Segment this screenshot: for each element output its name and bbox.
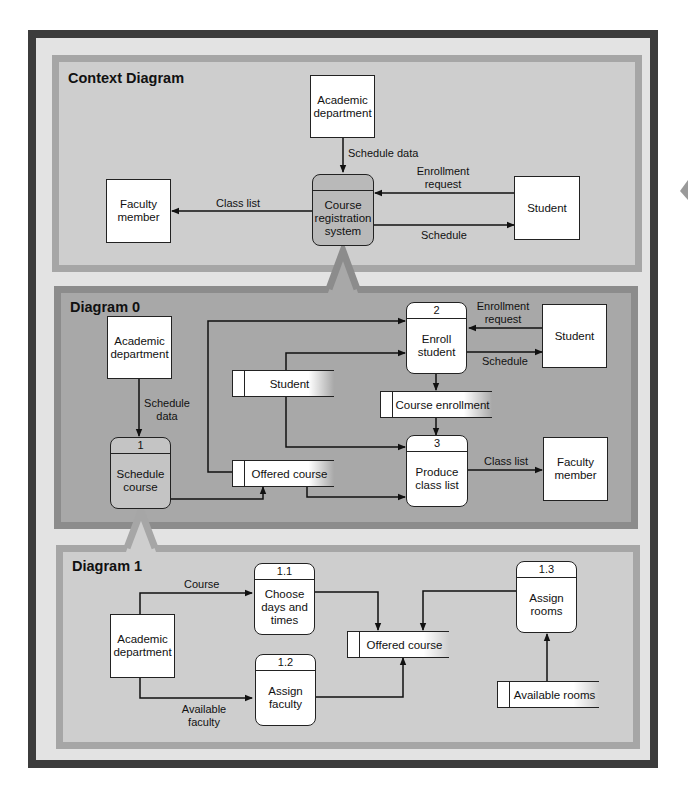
store-id-cell [232, 461, 245, 486]
entity-label: Academic department [108, 335, 171, 361]
process-id: 2 [407, 303, 466, 319]
entity-academic-department: Academic department [310, 75, 375, 138]
context-diagram-title: Context Diagram [68, 70, 184, 86]
flow-label-schedule: Schedule [421, 229, 467, 242]
process-id [313, 175, 373, 191]
entity-faculty-member: Faculty member [543, 437, 608, 501]
process-3-produce-class-list: 3 Produce class list [406, 435, 468, 507]
process-name: Schedule course [111, 454, 170, 508]
flow-label-schedule-data: Schedule data [348, 147, 418, 160]
store-id-cell [232, 371, 245, 396]
entity-label: Student [527, 202, 567, 215]
store-offered-course: Offered course [232, 460, 334, 487]
entity-label: Academic department [111, 633, 174, 659]
entity-faculty-member: Faculty member [106, 179, 171, 243]
process-name: Enroll student [407, 319, 466, 373]
process-id: 3 [407, 436, 467, 452]
entity-academic-department: Academic department [110, 614, 175, 678]
store-name: Available rooms [510, 682, 599, 707]
entity-academic-department: Academic department [107, 316, 172, 379]
process-course-registration-system: Course registration system [312, 174, 374, 246]
store-course-enrollment: Course enrollment [380, 391, 492, 418]
store-available-rooms: Available rooms [497, 681, 599, 708]
process-id: 1.1 [255, 564, 314, 580]
process-name: Assign faculty [256, 671, 315, 725]
flow-label-available-faculty: Available faculty [180, 703, 228, 728]
process-1-schedule-course: 1 Schedule course [110, 437, 171, 509]
flow-label-class-list: Class list [484, 455, 528, 468]
store-name: Offered course [360, 632, 449, 657]
cropped-arrow-artifact [680, 180, 688, 200]
process-1-1-choose-days-and-times: 1.1 Choose days and times [254, 563, 315, 635]
process-id: 1.2 [256, 655, 315, 671]
process-1-2-assign-faculty: 1.2 Assign faculty [255, 654, 316, 726]
process-1-3-assign-rooms: 1.3 Assign rooms [516, 561, 577, 633]
store-name: Offered course [245, 461, 334, 486]
process-name: Course registration system [313, 191, 373, 245]
process-name: Choose days and times [255, 580, 314, 634]
store-offered-course: Offered course [347, 631, 449, 658]
entity-label: Academic department [311, 94, 374, 120]
store-name: Course enrollment [393, 392, 492, 417]
flow-label-schedule-data: Schedule data [143, 397, 191, 422]
flow-label-enrollment-request: Enrollment request [474, 300, 532, 325]
store-name: Student [245, 371, 334, 396]
entity-label: Student [555, 330, 595, 343]
process-name: Assign rooms [517, 578, 576, 632]
entity-label: Faculty member [544, 456, 607, 482]
store-id-cell [497, 682, 510, 707]
entity-student: Student [542, 304, 607, 368]
flow-label-course: Course [184, 578, 219, 591]
process-2-enroll-student: 2 Enroll student [406, 302, 467, 374]
flow-label-enrollment-request: Enrollment request [413, 165, 473, 190]
diagram-1-title: Diagram 1 [72, 558, 142, 574]
process-id: 1.3 [517, 562, 576, 578]
diagram-0-title: Diagram 0 [70, 299, 140, 315]
process-id: 1 [111, 438, 170, 454]
store-id-cell [347, 632, 360, 657]
flow-label-schedule: Schedule [482, 355, 528, 368]
store-id-cell [380, 392, 393, 417]
process-name: Produce class list [407, 452, 467, 506]
entity-student: Student [514, 176, 580, 240]
store-student: Student [232, 370, 334, 397]
entity-label: Faculty member [107, 198, 170, 224]
flow-label-class-list: Class list [216, 197, 260, 210]
